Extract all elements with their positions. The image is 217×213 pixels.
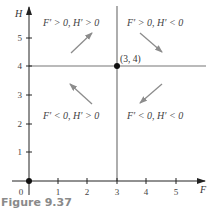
region-label-bottom-right: F′ < 0, H′ < 0: [126, 110, 183, 121]
x-axis-label: F: [199, 184, 207, 195]
y-tick-label-4: 4: [18, 61, 23, 71]
equilibrium-point-label: (3, 4): [120, 54, 141, 65]
arrow-down-left-icon: [140, 84, 162, 103]
region-label-bottom-left: F′ < 0, H′ > 0: [42, 110, 99, 121]
figure-caption: Figure 9.37: [1, 196, 72, 209]
y-tick-label-3: 3: [18, 90, 23, 100]
phase-plane-diagram: 1 2 3 4 5 0 5 4 3 2 1 H F (3, 4) F′ > 0,…: [0, 0, 217, 213]
arrow-up-right-icon: [71, 33, 92, 53]
arrow-down-right-icon: [140, 33, 162, 52]
region-label-top-left: F′ > 0, H′ > 0: [42, 17, 99, 28]
x-tick-label-3: 3: [115, 187, 120, 197]
y-tick-label-5: 5: [18, 33, 23, 43]
x-tick-label-2: 2: [85, 187, 90, 197]
y-tick-label-1: 1: [18, 147, 23, 157]
region-label-top-right: F′ > 0, H′ < 0: [126, 17, 183, 28]
x-tick-label-5: 5: [174, 187, 179, 197]
x-tick-label-4: 4: [144, 187, 149, 197]
origin-point: [26, 178, 32, 184]
y-tick-label-2: 2: [18, 119, 23, 129]
y-axis-label: H: [14, 8, 23, 19]
arrow-up-left-icon: [70, 84, 92, 104]
